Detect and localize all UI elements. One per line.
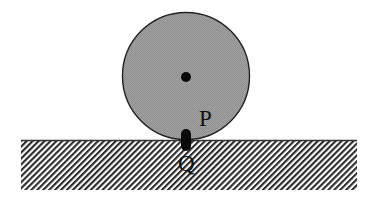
contact-point-marker-neck (182, 139, 190, 142)
wheel (123, 13, 250, 140)
wheel-center-dot (181, 72, 191, 82)
label-p: P (199, 106, 212, 131)
label-q: Q (178, 151, 195, 176)
wheel-on-ground-diagram: P Q (0, 0, 373, 200)
diagram-canvas: P Q (0, 0, 373, 200)
